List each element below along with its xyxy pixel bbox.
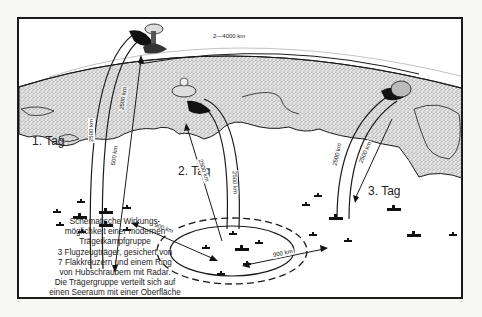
distance-arc-day1-label: 2500 km <box>88 118 95 143</box>
caption-text: Schematische Wirkungs- möglichkeit einer… <box>41 217 189 299</box>
distance-horizon-label: 2—4000 km <box>212 33 246 40</box>
day-1-label: 1. Tag <box>32 134 64 148</box>
day-3-label: 3. Tag <box>368 184 400 198</box>
caption-line: 3 Flugzeugträger, gesichert von <box>41 248 189 258</box>
caption-line: 7 Flakkreuzern und einem Ring <box>41 258 189 268</box>
caption-line: Trägerkampfgruppe <box>41 237 189 247</box>
caption-line: Die Trägergruppe verteilt sich auf <box>41 278 189 288</box>
caption-line: einen Seeraum mit einer Oberfläche <box>41 288 189 298</box>
earth-landmass <box>19 48 463 179</box>
caption-line: von Hubschraubern mit Radar. <box>41 268 189 278</box>
distance-arc-day2-label: 2500 km <box>231 170 239 195</box>
caption-line: möglichkeit einer modernen <box>41 227 189 237</box>
caption-line: Schematische Wirkungs- <box>41 217 189 227</box>
diagram-frame: 1. Tag 2. Tag 3. Tag 2—4000 km 2500 km 2… <box>17 17 463 299</box>
